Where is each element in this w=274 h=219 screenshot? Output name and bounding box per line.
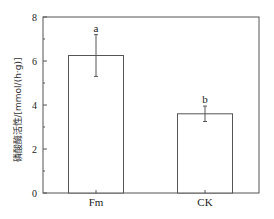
y-tick-8: 8 — [32, 12, 37, 23]
significance-letter-fm: a — [94, 22, 99, 34]
y-tick-2: 2 — [32, 144, 37, 155]
bar-chart: 0 2 4 6 8 磷酸酶活性/[mmol/(h·g)] a b Fm CK — [0, 0, 274, 219]
y-axis-ticks — [43, 17, 47, 193]
x-label-fm: Fm — [89, 196, 104, 208]
y-tick-6: 6 — [32, 56, 37, 67]
y-tick-4: 4 — [32, 100, 37, 111]
significance-letter-ck: b — [202, 93, 208, 105]
x-label-ck: CK — [197, 196, 212, 208]
bar-ck — [178, 114, 233, 193]
y-tick-0: 0 — [32, 188, 37, 199]
y-axis-tick-labels: 0 2 4 6 8 — [32, 12, 37, 199]
bars-group — [69, 56, 233, 194]
y-axis-title: 磷酸酶活性/[mmol/(h·g)] — [12, 58, 23, 163]
